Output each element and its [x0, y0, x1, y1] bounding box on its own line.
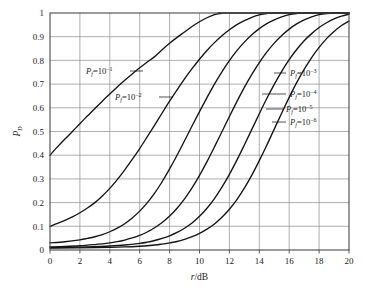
- x-tick-label: 12: [225, 256, 234, 266]
- y-tick-label: 0.1: [33, 222, 44, 232]
- x-axis-title: r/dB: [191, 272, 208, 282]
- x-tick-label: 10: [195, 256, 205, 266]
- x-tick-label: 8: [167, 256, 172, 266]
- y-tick-label: 0.5: [33, 127, 45, 137]
- detection-probability-figure: 0246810121416182000.10.20.30.40.50.60.70…: [0, 0, 371, 288]
- x-tick-label: 0: [48, 256, 53, 266]
- x-tick-label: 18: [315, 256, 325, 266]
- y-tick-label: 0.8: [33, 56, 45, 66]
- y-tick-label: 0.3: [33, 174, 45, 184]
- y-tick-label: 1: [40, 8, 45, 18]
- x-tick-label: 6: [137, 256, 142, 266]
- x-tick-label: 4: [108, 256, 113, 266]
- y-tick-label: 0.7: [33, 79, 45, 89]
- x-tick-label: 14: [255, 256, 265, 266]
- chart-background: [0, 0, 371, 288]
- y-tick-label: 0: [40, 245, 45, 255]
- x-tick-label: 2: [78, 256, 83, 266]
- x-tick-label: 16: [285, 256, 295, 266]
- y-tick-label: 0.9: [33, 32, 45, 42]
- probability-of-detection-chart: 0246810121416182000.10.20.30.40.50.60.70…: [0, 0, 371, 288]
- y-tick-label: 0.2: [33, 198, 44, 208]
- y-tick-label: 0.4: [33, 150, 45, 160]
- y-tick-label: 0.6: [33, 103, 45, 113]
- x-tick-label: 20: [345, 256, 355, 266]
